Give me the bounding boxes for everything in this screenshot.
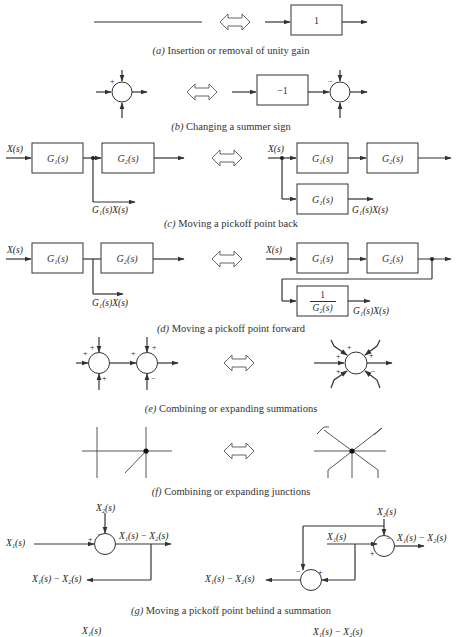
sign: + [369,352,374,360]
fraction-denominator: G₂(s) [312,303,332,313]
x2-label: X₂(s) [96,503,115,513]
fraction-numerator: 1 [320,290,325,300]
difference-label: X₁(s) − X₂(s) [397,533,446,543]
plus-sign: + [370,550,375,558]
block-label: 1 [314,15,319,26]
block-label: G₂(s) [116,253,137,264]
equivalence-arrow-icon [220,14,250,30]
sign: + [336,353,341,361]
sign: + [336,368,341,376]
minus-sign: − [97,531,102,539]
difference-output-label: X₁(s) − X₂(s) [205,574,254,584]
caption-letter: (c) [164,218,176,229]
g2-block: G₂(s) [367,243,418,273]
equivalence-arrow-icon [224,443,254,459]
caption-f: (f) Combining or expanding junctions [0,486,462,497]
sign: + [83,350,88,358]
caption-text: Combining or expanding summations [159,403,317,414]
section-c-right-diagram [268,143,451,214]
fraction-bar [310,301,336,302]
negative-gain-block: −1 [257,75,308,105]
g2-block: G₂(s) [102,143,154,173]
input-label: X(s) [266,245,282,255]
summer-plus-sign: + [110,78,115,86]
section-g-right-diagram [266,519,424,591]
caption-e: (e) Combining or expanding summations [0,403,462,414]
summer-minus-sign: − [328,78,333,86]
section-g-left-diagram [34,513,171,580]
g1-block: G₁(s) [32,143,83,173]
g1-copy-block: G₁(s) [297,184,348,214]
sign: + [102,375,107,383]
caption-text: Insertion or removal of unity gain [167,45,309,56]
block-label: G₂(s) [382,153,403,164]
pickoff-output-label: G₁(s)X(s) [353,306,389,316]
caption-letter: (f) [152,486,162,497]
x2-label: X₂(s) [377,507,396,517]
partial-x1-label: X₁(s) [82,626,101,636]
difference-output-label: X₁(s) − X₂(s) [32,574,81,584]
block-label: G₁(s) [312,153,333,164]
g1-block: G₁(s) [297,243,348,273]
caption-letter: (g) [131,605,143,616]
plus-sign: + [88,536,93,544]
block-label: −1 [277,85,288,96]
block-label: G₁(s) [312,253,333,264]
caption-d: (d) Moving a pickoff point forward [0,323,462,334]
block-label: G₂(s) [117,153,138,164]
equivalence-arrow-icon [224,355,254,371]
caption-text: Moving a pickoff point forward [172,323,305,334]
sign: + [152,344,157,352]
minus-sign: − [386,535,391,543]
caption-text: Moving a pickoff point back [178,218,298,229]
caption-text: Combining or expanding junctions [164,486,310,497]
equivalence-arrow-icon [212,251,242,267]
section-b-diagram [96,70,367,118]
caption-text: Changing a summer sign [186,121,291,132]
pickoff-output-label: G₁(s)X(s) [352,205,388,215]
g1-block: G₁(s) [32,243,83,273]
inverse-g2-block: 1 G₂(s) [297,286,348,316]
block-label: G₁(s) [47,153,68,164]
difference-label: X₁(s) − X₂(s) [119,531,168,541]
caption-letter: (e) [145,403,157,414]
unity-gain-block: 1 [291,5,342,35]
g2-block: G₂(s) [101,243,153,273]
equivalence-arrow-icon [187,84,217,100]
equivalence-arrow-icon [212,150,242,166]
input-label: X(s) [7,245,23,255]
caption-b: (b) Changing a summer sign [0,121,462,132]
sign: + [90,344,95,352]
sign: − [151,375,156,383]
caption-a: (a) Insertion or removal of unity gain [0,45,462,56]
pickoff-output-label: G₁(s)X(s) [92,298,128,308]
sign: − [371,368,376,376]
pickoff-output-label: G₁(s)X(s) [92,205,128,215]
block-label: G₂(s) [382,253,403,264]
sign: + [347,344,352,352]
x1-label: X₁(s) [327,532,346,542]
x1-label: X₁(s) [6,538,25,548]
caption-letter: (b) [171,121,183,132]
input-label: X(s) [7,144,23,154]
block-label: G₁(s) [312,194,333,205]
caption-letter: (d) [157,323,169,334]
sign: + [131,350,136,358]
input-label: X(s) [268,144,284,154]
caption-g: (g) Moving a pickoff point behind a summ… [0,605,462,616]
fraction: 1 G₂(s) [310,290,336,313]
section-e-right-diagram [314,340,392,388]
section-f-left-diagram [82,427,172,478]
g2-block: G₂(s) [367,143,418,173]
block-label: G₁(s) [47,253,68,264]
partial-difference-label: X₁(s) − X₂(s) [313,627,362,637]
g1-block: G₁(s) [297,143,348,173]
caption-letter: (a) [153,45,165,56]
caption-text: Moving a pickoff point behind a summatio… [146,605,331,616]
caption-c: (c) Moving a pickoff point back [0,218,462,229]
minus-sign: − [296,568,301,576]
plus-sign: + [318,569,323,577]
